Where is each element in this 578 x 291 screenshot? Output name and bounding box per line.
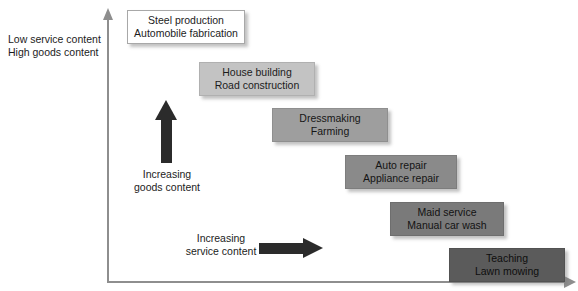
continuum-box-line1: Teaching (486, 252, 528, 265)
vertical-axis-arrowhead-icon (103, 8, 113, 20)
continuum-box: Dressmaking Farming (272, 108, 388, 142)
continuum-box-line1: House building (222, 66, 291, 79)
continuum-box-line2: Farming (311, 125, 350, 138)
continuum-box-line1: Dressmaking (299, 112, 360, 125)
increasing-goods-caption: Increasing goods content (120, 168, 214, 194)
continuum-box-line1: Maid service (418, 206, 477, 219)
continuum-box-line1: Steel production (148, 14, 224, 27)
continuum-box-line2: Appliance repair (363, 172, 439, 185)
increasing-goods-arrowhead-icon (155, 100, 177, 120)
increasing-service-arrow-shaft (259, 243, 305, 254)
continuum-box-line2: Manual car wash (407, 219, 486, 232)
continuum-box: Maid service Manual car wash (390, 202, 504, 236)
continuum-box: House building Road construction (199, 62, 315, 96)
increasing-service-caption: Increasing service content (181, 232, 261, 258)
continuum-box-line2: Lawn mowing (475, 265, 539, 278)
continuum-box-line1: Auto repair (375, 159, 426, 172)
continuum-box-line2: Automobile fabrication (134, 27, 238, 40)
continuum-box-line2: Road construction (215, 79, 300, 92)
increasing-goods-caption-line2: goods content (120, 181, 214, 194)
continuum-box: Steel production Automobile fabrication (127, 10, 245, 44)
horizontal-axis-arrowhead-icon (564, 276, 576, 288)
increasing-goods-arrow-shaft (161, 119, 172, 163)
goods-services-continuum-diagram: Low service content High goods content S… (0, 0, 578, 291)
vertical-axis-label: Low service content High goods content (8, 33, 104, 59)
increasing-service-arrowhead-icon (303, 238, 323, 258)
continuum-box: Auto repair Appliance repair (345, 155, 457, 189)
vertical-axis-label-line2: High goods content (8, 46, 104, 59)
vertical-axis (107, 18, 109, 283)
increasing-service-caption-line1: Increasing (181, 232, 261, 245)
vertical-axis-label-line1: Low service content (8, 33, 104, 46)
increasing-goods-caption-line1: Increasing (120, 168, 214, 181)
increasing-service-caption-line2: service content (181, 245, 261, 258)
continuum-box: Teaching Lawn mowing (449, 248, 565, 282)
